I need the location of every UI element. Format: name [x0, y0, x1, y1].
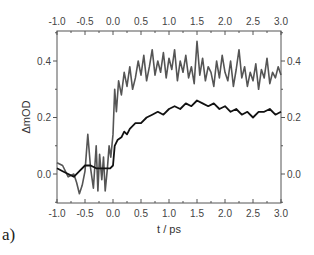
grey-trace-line: [57, 41, 281, 194]
data-series: [57, 41, 281, 194]
x-tick-label: 1.5: [190, 208, 204, 219]
x-tick-label: -0.5: [76, 208, 94, 219]
top-tick-label: 1.5: [190, 16, 204, 27]
y-tick-label: 0.0: [37, 169, 51, 180]
top-tick-label: 3.0: [274, 16, 288, 27]
axis-ticks: -1.0-0.50.00.51.01.52.02.53.0-1.0-0.50.0…: [37, 16, 301, 219]
top-tick-label: 0.0: [106, 16, 120, 27]
right-tick-label: 0.2: [287, 112, 301, 123]
top-tick-label: 1.0: [162, 16, 176, 27]
top-tick-label: 2.5: [246, 16, 260, 27]
y-tick-label: 0.4: [37, 56, 51, 67]
x-tick-label: 2.0: [218, 208, 232, 219]
top-tick-label: -1.0: [48, 16, 66, 27]
y-tick-label: 0.2: [37, 112, 51, 123]
x-tick-label: 2.5: [246, 208, 260, 219]
x-tick-label: -1.0: [48, 208, 66, 219]
x-tick-label: 1.0: [162, 208, 176, 219]
plot-frame: [57, 31, 281, 203]
y-axis-label: ΔmOD: [20, 100, 32, 133]
panel-label: a): [2, 225, 15, 244]
right-tick-label: 0.0: [287, 169, 301, 180]
x-axis-label: t / ps: [157, 223, 181, 235]
x-tick-label: 0.0: [106, 208, 120, 219]
x-tick-label: 0.5: [134, 208, 148, 219]
chart: -1.0-0.50.00.51.01.52.02.53.0-1.0-0.50.0…: [0, 0, 314, 255]
top-tick-label: -0.5: [76, 16, 94, 27]
top-tick-label: 2.0: [218, 16, 232, 27]
x-tick-label: 3.0: [274, 208, 288, 219]
black-trace-line: [57, 101, 281, 177]
right-tick-label: 0.4: [287, 56, 301, 67]
top-tick-label: 0.5: [134, 16, 148, 27]
